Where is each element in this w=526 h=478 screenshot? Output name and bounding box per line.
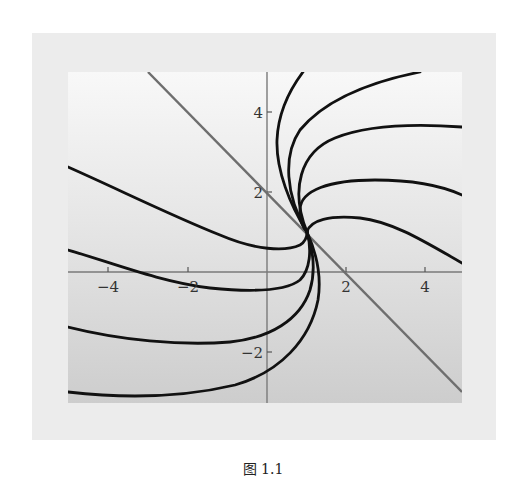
figure-caption: 图 1.1 (0, 458, 526, 478)
y-tick-label: −2 (241, 344, 263, 362)
y-tick-label: 2 (253, 184, 263, 202)
y-tick-label: 4 (253, 104, 263, 122)
x-tick-label: 4 (420, 278, 430, 296)
x-tick-label: −4 (97, 278, 119, 296)
x-tick-label: 2 (341, 278, 351, 296)
plot-area (68, 72, 462, 403)
x-tick-label: −2 (177, 278, 199, 296)
